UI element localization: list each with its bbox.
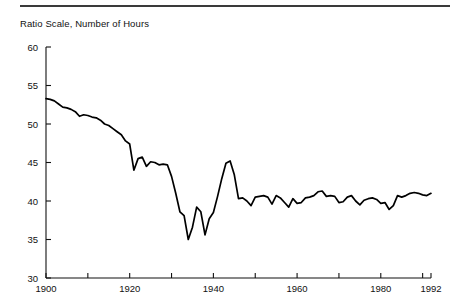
data-series-line xyxy=(46,99,431,240)
x-tick-label: 1992 xyxy=(420,283,441,294)
y-tick-label: 40 xyxy=(27,196,38,207)
y-tick-label: 30 xyxy=(27,273,38,284)
x-tick-label: 1940 xyxy=(203,283,224,294)
y-axis: 30354045505560 xyxy=(27,42,51,284)
y-tick-label: 35 xyxy=(27,234,38,245)
data-series-group xyxy=(46,99,431,240)
chart-figure: Ratio Scale, Number of Hours 30354045505… xyxy=(0,0,460,304)
x-tick-label: 1960 xyxy=(287,283,308,294)
y-tick-label: 55 xyxy=(27,80,38,91)
y-tick-label: 50 xyxy=(27,119,38,130)
chart-plot-area: 30354045505560 190019201940196019801992 xyxy=(0,0,460,304)
y-tick-label: 45 xyxy=(27,157,38,168)
x-tick-label: 1920 xyxy=(119,283,140,294)
x-tick-label: 1980 xyxy=(370,283,391,294)
x-axis: 190019201940196019801992 xyxy=(35,273,441,294)
x-tick-label: 1900 xyxy=(35,283,56,294)
y-tick-label: 60 xyxy=(27,42,38,53)
